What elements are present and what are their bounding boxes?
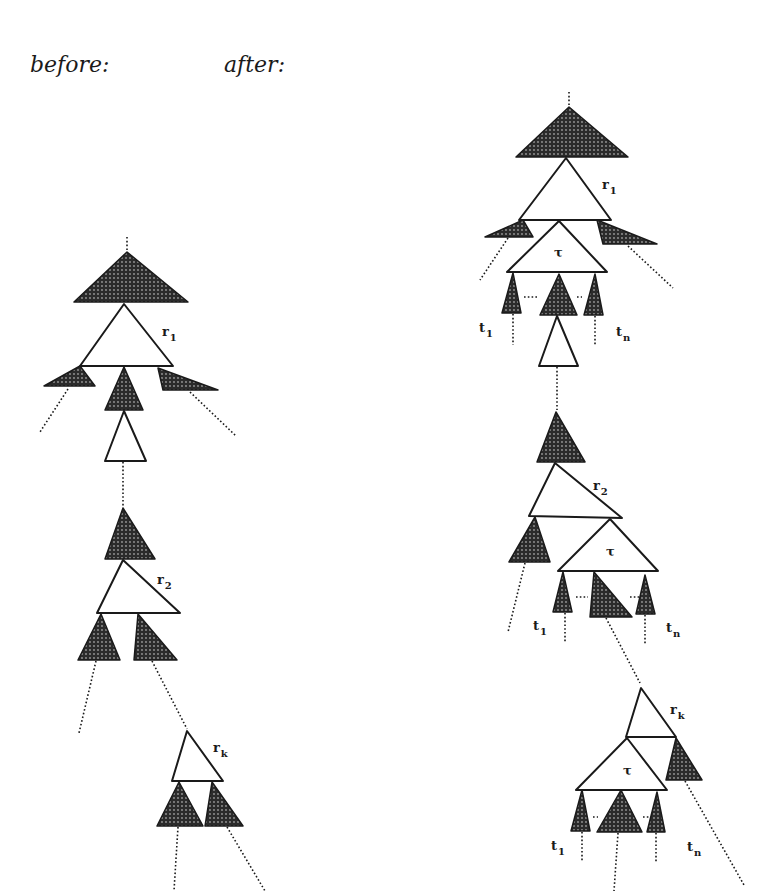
node-label: rk — [213, 740, 229, 759]
shaded-subtree-triangle — [537, 412, 585, 462]
tree-diagram: r1r2rk r1τt1tnr2τt1tnrkτt1tn — [0, 0, 770, 891]
node-label: r2 — [593, 478, 608, 497]
node-label: t1 — [479, 320, 493, 339]
node-label: tn — [616, 324, 631, 343]
dotted-edge — [40, 389, 68, 432]
node-label: r1 — [602, 177, 617, 196]
node-label: τ — [623, 763, 632, 778]
node-label: τ — [606, 544, 615, 559]
shaded-subtree-triangle — [571, 790, 590, 831]
dotted-edge — [79, 661, 96, 733]
node-label: t1 — [551, 838, 565, 857]
dotted-edge — [174, 827, 178, 891]
dotted-edge — [508, 563, 525, 632]
white-subtree-triangle — [172, 731, 223, 781]
node-label: r2 — [157, 572, 172, 591]
dotted-edge — [190, 392, 236, 436]
shaded-subtree-triangle — [597, 220, 657, 244]
node-label: t1 — [533, 618, 547, 637]
shaded-subtree-triangle — [666, 738, 702, 780]
before-panel: r1r2rk — [40, 237, 265, 891]
dotted-edge — [685, 781, 744, 885]
shaded-subtree-triangle — [44, 366, 95, 386]
shaded-subtree-triangle — [485, 220, 533, 237]
shaded-subtree-triangle — [590, 572, 632, 617]
dotted-edge — [628, 246, 673, 288]
shaded-subtree-triangle — [158, 368, 218, 390]
shaded-subtree-triangle — [647, 792, 665, 832]
shaded-subtree-triangle — [584, 274, 603, 315]
shaded-subtree-triangle — [78, 614, 120, 660]
node-label: rk — [670, 702, 686, 721]
shaded-subtree-triangle — [74, 252, 188, 302]
shaded-subtree-triangle — [597, 790, 642, 832]
white-subtree-triangle — [80, 304, 173, 366]
shaded-subtree-triangle — [540, 274, 577, 315]
white-subtree-triangle — [539, 316, 578, 366]
dotted-edge — [152, 661, 187, 729]
after-panel: r1τt1tnr2τt1tnrkτt1tn — [479, 92, 744, 891]
shaded-subtree-triangle — [636, 575, 655, 614]
shaded-subtree-triangle — [205, 782, 243, 826]
node-label: tn — [687, 839, 702, 858]
node-label: tn — [666, 620, 681, 639]
shaded-subtree-triangle — [105, 508, 155, 559]
shaded-subtree-triangle — [157, 782, 203, 826]
dotted-edge — [480, 238, 508, 280]
node-label: r1 — [162, 324, 177, 343]
white-subtree-triangle — [529, 463, 622, 518]
dotted-edge — [227, 827, 265, 891]
white-subtree-triangle — [519, 158, 611, 220]
white-subtree-triangle — [576, 738, 667, 790]
node-label: τ — [554, 245, 563, 260]
shaded-subtree-triangle — [105, 367, 143, 410]
shaded-subtree-triangle — [553, 572, 572, 612]
dotted-edge — [606, 618, 640, 683]
white-subtree-triangle — [626, 688, 676, 737]
shaded-subtree-triangle — [502, 273, 521, 313]
shaded-subtree-triangle — [516, 107, 628, 157]
white-subtree-triangle — [105, 411, 146, 461]
shaded-subtree-triangle — [134, 614, 177, 660]
dotted-edge — [614, 833, 618, 891]
shaded-subtree-triangle — [509, 517, 550, 562]
